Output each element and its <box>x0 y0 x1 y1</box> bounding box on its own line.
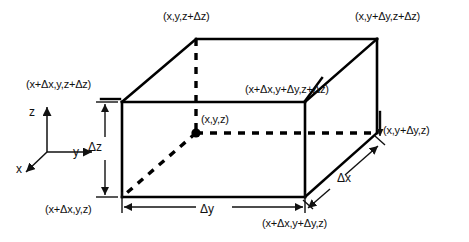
label-leader-lines <box>101 78 380 133</box>
axis-label-x: x <box>16 163 22 175</box>
dx-tick-far <box>375 136 385 145</box>
axis-label-y: y <box>73 146 79 158</box>
hidden-edge-bottom-left-diagonal <box>122 133 196 197</box>
vertex-label-top-front-left: (x+Δx,y,z+Δz) <box>26 78 91 90</box>
axis-x-arrow <box>26 152 47 172</box>
dimension-label-dx: Δx <box>337 172 351 184</box>
vertex-label-bottom-front-right: (x+Δx,y+Δy,z) <box>262 217 327 229</box>
vertex-label-bottom-front-left: (x+Δx,y,z) <box>45 203 91 215</box>
center-point-dot <box>191 128 200 137</box>
vertex-label-top-front-right: (x+Δx,y+Δy,z+Δz) <box>245 83 329 95</box>
edge-bottom-right-diagonal <box>305 133 377 197</box>
dimension-label-dy: Δy <box>200 203 214 215</box>
vertex-label-bottom-back-right: (x,y+Δy,z) <box>383 124 429 136</box>
dimension-label-dz: Δz <box>88 141 102 153</box>
vertex-label-top-back-left: (x,y,z+Δz) <box>163 10 209 22</box>
control-volume-diagram: (x,y,z+Δz) (x,y+Δy,z+Δz) (x+Δx,y,z+Δz) (… <box>0 0 469 242</box>
vertex-label-top-back-right: (x,y+Δy,z+Δz) <box>355 10 420 22</box>
axis-label-z: z <box>29 106 35 118</box>
axis-triad <box>26 107 92 172</box>
edge-top-left-diagonal <box>122 39 196 102</box>
vertex-label-center-point: (x,y,z) <box>201 113 229 125</box>
